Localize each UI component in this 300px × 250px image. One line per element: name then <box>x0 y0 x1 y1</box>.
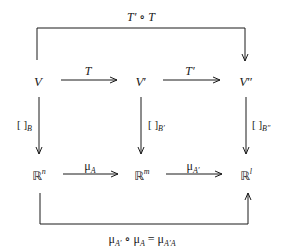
bracket-B-dprime: [ ] <box>252 118 262 130</box>
sub-B-dprime: B″ <box>262 124 270 133</box>
node-Rn-exp: n <box>42 167 46 176</box>
mu-A-sub: A <box>91 166 96 175</box>
sub3: A′A <box>164 239 176 248</box>
sub-B-prime: B′ <box>158 124 165 133</box>
composite-top-text: T′ ∘ T <box>127 10 155 24</box>
equals-sign: = <box>145 232 158 246</box>
node-V-prime-base: V <box>136 74 144 89</box>
composite-top-label: T′ ∘ T <box>127 11 155 23</box>
node-Rm-exp: m <box>144 167 150 176</box>
node-Rn: ℝn <box>32 169 46 182</box>
mu-A-prime-sub: A′ <box>193 166 200 175</box>
arrow-T-prime-text: T′ <box>185 64 194 78</box>
arrow-T-label: T <box>85 65 92 77</box>
arrow-T-text: T <box>85 64 92 78</box>
node-Rl: ℝl <box>240 169 252 182</box>
arrow-coord-B-label: [ ]B <box>17 119 32 130</box>
node-V-dprime: V″ <box>239 75 252 88</box>
bracket-B-prime: [ ] <box>148 118 158 130</box>
composite-top-arrow <box>37 28 245 61</box>
compose-op: ∘ <box>122 232 134 246</box>
node-Rn-base: ℝ <box>32 169 42 183</box>
node-V: V <box>34 75 42 88</box>
bracket-B: [ ] <box>17 118 27 130</box>
node-Rl-base: ℝ <box>240 169 250 183</box>
node-Rm-base: ℝ <box>134 169 144 183</box>
node-V-dprime-base: V <box>239 74 247 89</box>
node-V-prime-mark: ′ <box>144 74 147 89</box>
sub-B: B <box>27 124 32 133</box>
node-V-text: V <box>34 74 42 89</box>
arrow-coord-B-dprime-label: [ ]B″ <box>252 119 270 130</box>
arrow-mu-A-label: μA <box>84 160 95 172</box>
composite-bottom-arrow <box>40 193 248 224</box>
arrow-T-prime-label: T′ <box>185 65 194 77</box>
composite-bottom-label: μA′ ∘ μA = μA′A <box>108 233 175 245</box>
arrow-coord-B-prime-label: [ ]B′ <box>148 119 165 130</box>
node-Rl-exp: l <box>250 167 252 176</box>
node-Rm: ℝm <box>134 169 149 182</box>
node-V-prime: V′ <box>136 75 147 88</box>
arrow-mu-A-prime-label: μA′ <box>186 160 199 172</box>
node-V-dprime-mark: ″ <box>247 74 252 89</box>
